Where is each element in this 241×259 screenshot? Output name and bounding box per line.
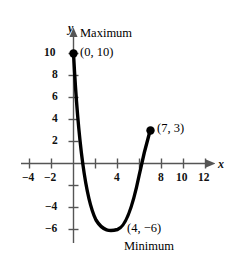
parabola-curve: [74, 54, 151, 231]
x-tick-label-neg4: −4: [22, 172, 34, 184]
graph-figure: y x 10 8 6 4 2 −4 −6 −4 −2 4 8 10 12 Max…: [0, 0, 241, 259]
y-tick-label-neg4: −4: [45, 201, 57, 213]
x-tick-label-12: 12: [198, 172, 210, 184]
x-tick-label-10: 10: [176, 172, 188, 184]
max-point-marker: [69, 49, 77, 57]
y-tick-label-neg6: −6: [45, 223, 57, 235]
y-tick-label-4: 4: [52, 113, 58, 125]
y-tick-label-10: 10: [44, 47, 56, 59]
x-axis-label: x: [218, 158, 224, 170]
y-tick-label-2: 2: [52, 135, 58, 147]
x-tick-label-4: 4: [114, 172, 120, 184]
minimum-annotation: Minimum: [124, 240, 174, 253]
x-tick-label-8: 8: [158, 172, 164, 184]
end-point-label: (7, 3): [157, 122, 184, 135]
y-tick-label-8: 8: [52, 69, 58, 81]
max-point-label: (0, 10): [80, 46, 113, 59]
min-point-label: (4, −6): [127, 222, 161, 235]
x-tick-label-neg2: −2: [44, 172, 56, 184]
y-axis-label: y: [68, 22, 73, 34]
maximum-annotation: Maximum: [80, 27, 132, 40]
y-tick-label-6: 6: [52, 91, 58, 103]
end-point-marker: [146, 126, 154, 134]
